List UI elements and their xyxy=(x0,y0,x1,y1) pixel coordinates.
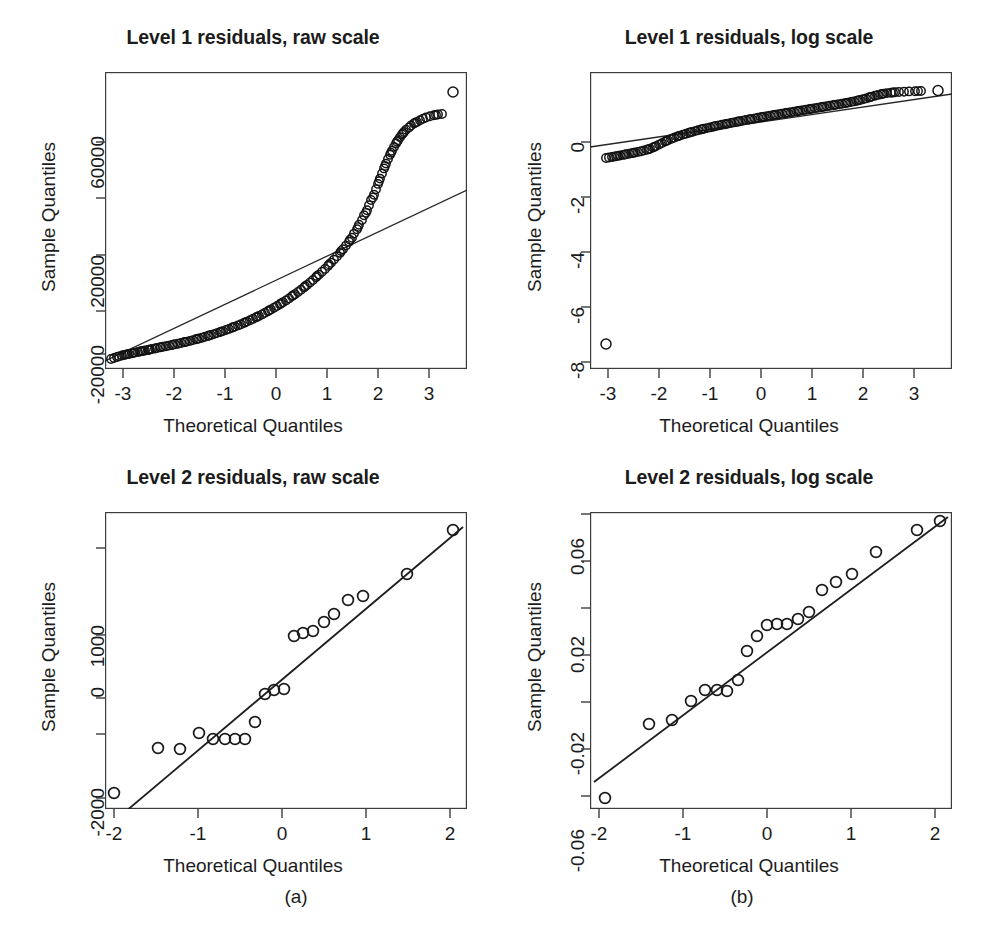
x-axis-ticks xyxy=(590,369,952,379)
x-tick-label: 2 xyxy=(858,383,869,405)
x-tick-label: -1 xyxy=(217,383,234,405)
x-tick-label: 0 xyxy=(762,823,773,845)
x-tick-label: 0 xyxy=(756,383,767,405)
x-axis-ticks xyxy=(590,809,952,819)
x-tick-label: 0 xyxy=(277,823,288,845)
x-tick-label: -1 xyxy=(190,823,207,845)
x-axis-label: Theoretical Quantiles xyxy=(536,855,962,877)
subfigure-caption-b: (b) xyxy=(730,886,753,908)
y-tick-label: -6 xyxy=(567,307,589,324)
x-tick-label: 3 xyxy=(909,383,920,405)
panel-level2-log: Level 2 residuals, log scale 0.06 0.02 -… xyxy=(492,440,984,895)
panel-level2-raw: Level 2 residuals, raw scale 1000 0 -200… xyxy=(0,440,492,895)
x-tick-label: 3 xyxy=(424,383,435,405)
x-tick-label: -3 xyxy=(115,383,132,405)
y-axis-label: Sample Quantiles xyxy=(524,142,546,292)
qq-scatter-level2-raw xyxy=(105,512,467,809)
x-tick-label: -1 xyxy=(675,823,692,845)
x-tick-label: -2 xyxy=(106,823,123,845)
x-axis-ticks xyxy=(105,369,467,379)
y-axis-label: Sample Quantiles xyxy=(524,582,546,732)
subfigure-caption-a: (a) xyxy=(284,886,307,908)
x-tick-label: -2 xyxy=(651,383,668,405)
y-tick-label: 0 xyxy=(567,142,589,153)
panel-level1-log: Level 1 residuals, log scale 0 -2 -4 -6 … xyxy=(492,0,984,455)
x-tick-label: 1 xyxy=(322,383,333,405)
plot-area[interactable] xyxy=(590,72,952,369)
x-tick-label: 1 xyxy=(361,823,372,845)
x-tick-label: 1 xyxy=(846,823,857,845)
x-tick-label: 2 xyxy=(445,823,456,845)
qq-scatter-level1-log xyxy=(590,72,952,369)
qq-scatter-level2-log xyxy=(590,512,952,809)
panel-title: Level 2 residuals, log scale xyxy=(536,466,962,489)
x-axis-label: Theoretical Quantiles xyxy=(40,855,466,877)
panel-title: Level 2 residuals, raw scale xyxy=(40,466,466,489)
panel-title: Level 1 residuals, raw scale xyxy=(40,26,466,49)
y-axis-label: Sample Quantiles xyxy=(38,142,60,292)
y-tick-label: -2 xyxy=(567,197,589,214)
y-tick-label: -8 xyxy=(567,362,589,379)
y-axis-label: Sample Quantiles xyxy=(38,582,60,732)
x-tick-label: 1 xyxy=(807,383,818,405)
y-tick-label: -4 xyxy=(567,252,589,269)
y-tick-label: -0.02 xyxy=(567,732,589,775)
x-tick-label: -3 xyxy=(600,383,617,405)
plot-area[interactable] xyxy=(105,72,467,369)
qq-scatter-level1-raw xyxy=(105,72,467,369)
plot-area[interactable] xyxy=(590,512,952,809)
panel-level1-raw: Level 1 residuals, raw scale 60000 20000… xyxy=(0,0,492,455)
x-axis-label: Theoretical Quantiles xyxy=(40,415,466,437)
qq-plot-figure: Level 1 residuals, raw scale 60000 20000… xyxy=(0,0,984,933)
x-tick-label: 2 xyxy=(373,383,384,405)
x-axis-ticks xyxy=(105,809,467,819)
y-tick-label: 0.02 xyxy=(567,636,589,673)
x-tick-label: -2 xyxy=(166,383,183,405)
panel-title: Level 1 residuals, log scale xyxy=(536,26,962,49)
plot-area[interactable] xyxy=(105,512,467,809)
x-tick-label: -1 xyxy=(702,383,719,405)
x-axis-label: Theoretical Quantiles xyxy=(536,415,962,437)
x-tick-label: 2 xyxy=(930,823,941,845)
y-tick-label: 0.06 xyxy=(567,538,589,575)
x-tick-label: -2 xyxy=(591,823,608,845)
x-tick-label: 0 xyxy=(271,383,282,405)
